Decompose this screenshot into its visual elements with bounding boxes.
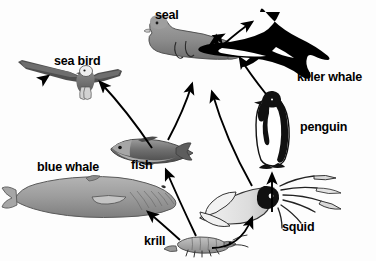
label-krill: krill [144, 235, 165, 248]
arrow-left-edge-pointer [18, 76, 48, 96]
label-blue-whale: blue whale [37, 161, 99, 174]
arrow-fish-to-seal [168, 84, 192, 140]
label-fish: fish [131, 159, 152, 172]
label-penguin: penguin [300, 121, 347, 134]
label-sea-bird: sea bird [54, 55, 100, 68]
label-squid: squid [282, 221, 314, 234]
label-seal: seal [155, 9, 179, 22]
label-killer-whale: killer whale [297, 71, 362, 84]
arrow-penguin-to-killer-whale [240, 58, 266, 94]
arrow-squid-to-seal [212, 92, 252, 186]
arrow-fish-to-sea-bird [100, 82, 152, 148]
arrow-krill-to-fish [166, 170, 196, 236]
food-web-diagram: seal sea bird killer whale penguin blue … [0, 0, 376, 261]
arrow-blue-whale-to-killer-whale [170, 36, 216, 178]
arrow-blue-whale-to-killer-whale-visible [214, 36, 242, 46]
arrow-krill-to-squid [212, 218, 252, 248]
